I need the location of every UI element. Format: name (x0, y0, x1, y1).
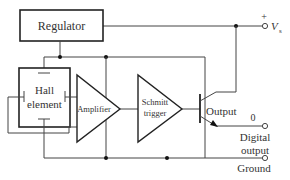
amplifier-label: Amplifier (77, 104, 111, 114)
digital-output-label-line1: Digital (240, 131, 271, 143)
regulator-block: Regulator (20, 10, 103, 41)
vs-terminal: + V s (261, 11, 282, 35)
schmitt-trigger-block: Schmitt trigger (138, 75, 182, 142)
emitter-arrow-icon (210, 120, 218, 127)
rail-junction-dot-1 (58, 55, 62, 59)
regulator-label: Regulator (38, 19, 85, 33)
vs-subscript: s (279, 27, 282, 35)
hall-label-line2: element (27, 98, 62, 110)
schmitt-label-line2: trigger (144, 108, 167, 118)
hall-sensor-diagram: Regulator Hall element Amplifier (0, 0, 290, 180)
digital-output-level: 0 (251, 112, 256, 123)
vs-polarity: + (261, 11, 267, 22)
ground-junction-dot-2 (165, 156, 169, 160)
vs-label: V (271, 20, 279, 32)
amplifier-block: Amplifier (77, 75, 120, 142)
ground-label: Ground (237, 162, 271, 174)
output-label: Output (206, 105, 237, 117)
schmitt-label-line1: Schmitt (142, 97, 169, 107)
ground-junction-dot-1 (104, 156, 108, 160)
digital-output-terminal: 0 Digital output (240, 112, 271, 156)
hall-label-line1: Hall (35, 84, 54, 96)
hall-element-block: Hall element (19, 68, 70, 127)
digital-output-label-line2: output (241, 144, 269, 156)
